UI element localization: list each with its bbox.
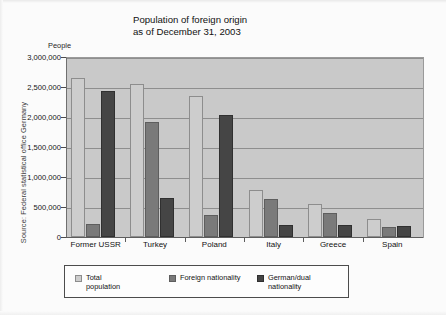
legend-swatch bbox=[169, 275, 176, 282]
legend-label: German/dual nationality bbox=[268, 274, 311, 291]
scan-edge-bottom bbox=[0, 311, 446, 315]
x-tick-label: Italy bbox=[266, 240, 281, 249]
legend-label: Total population bbox=[86, 274, 120, 291]
legend-item: Foreign nationality bbox=[169, 274, 240, 283]
y-tick-label: 500,000 bbox=[34, 203, 61, 212]
x-tick-label: Poland bbox=[202, 240, 227, 249]
y-tick-label: 1,500,000 bbox=[27, 143, 61, 152]
legend-swatch bbox=[257, 275, 264, 282]
y-axis-tick-labels: 3,000,0002,500,0002,000,0001,500,0001,00… bbox=[0, 57, 61, 237]
legend-swatch bbox=[75, 275, 82, 282]
y-tick-label: 2,500,000 bbox=[27, 83, 61, 92]
y-tick-label: 2,000,000 bbox=[27, 113, 61, 122]
x-tick-label: Turkey bbox=[143, 240, 167, 249]
legend-item: Total population bbox=[75, 274, 120, 291]
x-tick-label: Greece bbox=[320, 240, 346, 249]
legend-label: Foreign nationality bbox=[180, 274, 240, 283]
y-tick-label: 1,000,000 bbox=[27, 173, 61, 182]
x-axis-tick-marks bbox=[66, 0, 422, 250]
chart-figure: Source: Federal statistical office Germa… bbox=[0, 0, 446, 315]
x-tick-label: Former USSR bbox=[71, 240, 121, 249]
y-tick-label: 3,000,000 bbox=[27, 53, 61, 62]
x-axis-tick-labels: Former USSRTurkeyPolandItalyGreeceSpain bbox=[66, 240, 422, 254]
x-tick-label: Spain bbox=[382, 240, 402, 249]
y-tick-label: 0 bbox=[57, 233, 61, 242]
legend-item: German/dual nationality bbox=[257, 274, 311, 291]
chart-legend: Total populationForeign nationalityGerma… bbox=[64, 265, 349, 298]
